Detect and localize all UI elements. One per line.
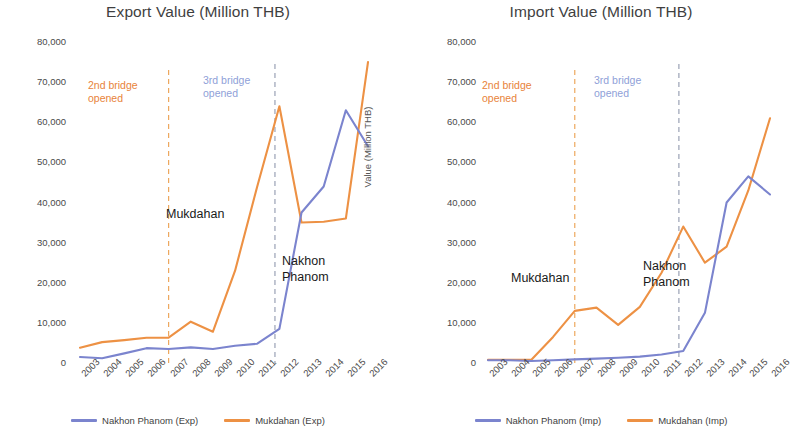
y-axis-tick-label: 80,000 [10, 37, 66, 47]
y-axis-title: Value (Million THB) [362, 87, 373, 207]
y-axis-tick-label: 50,000 [10, 157, 66, 167]
nakhon-phanom-series-annotation: Nakhon Phanom [282, 253, 329, 285]
series-line [488, 176, 770, 361]
x-axis-ticks: 2003200420052006200720082009201020112012… [68, 365, 378, 407]
y-axis-tick-label: 80,000 [420, 37, 476, 47]
y-axis-tick-label: 50,000 [420, 157, 476, 167]
import-legend: Nakhon Phanom (Imp)Mukdahan (Imp) [396, 415, 792, 426]
series-line [488, 118, 770, 360]
legend-item[interactable]: Nakhon Phanom (Imp) [475, 415, 602, 426]
x-axis-ticks: 2003200420052006200720082009201020112012… [478, 365, 778, 407]
legend-label: Mukdahan (Imp) [658, 415, 727, 426]
y-axis-ticks: 80,00070,00060,00050,00040,00030,00020,0… [410, 0, 476, 430]
bridge3-annotation: 3rd bridge opened [203, 74, 250, 100]
y-axis-tick-label: 40,000 [420, 198, 476, 208]
legend-item[interactable]: Nakhon Phanom (Exp) [71, 415, 198, 426]
y-axis-tick-label: 20,000 [10, 278, 66, 288]
export-chart-panel: Export Value (Million THB) Value (Millio… [0, 0, 396, 430]
legend-item[interactable]: Mukdahan (Exp) [224, 415, 325, 426]
bridge2-annotation: 2nd bridge opened [482, 79, 532, 105]
y-axis-tick-label: 10,000 [10, 318, 66, 328]
mukdahan-series-annotation: Mukdahan [166, 206, 224, 222]
legend-color-swatch [71, 419, 97, 422]
y-axis-tick-label: 0 [10, 358, 66, 368]
legend-color-swatch [475, 419, 501, 422]
y-axis-tick-label: 30,000 [420, 238, 476, 248]
legend-label: Nakhon Phanom (Exp) [102, 415, 198, 426]
y-axis-tick-label: 0 [420, 358, 476, 368]
bridge2-annotation: 2nd bridge opened [88, 79, 138, 105]
y-axis-ticks: 80,00070,00060,00050,00040,00030,00020,0… [0, 0, 66, 430]
y-axis-tick-label: 60,000 [10, 117, 66, 127]
legend-item[interactable]: Mukdahan (Imp) [627, 415, 727, 426]
bridge3-annotation: 3rd bridge opened [594, 74, 641, 100]
mukdahan-series-annotation: Mukdahan [511, 270, 569, 286]
y-axis-tick-label: 40,000 [10, 198, 66, 208]
y-axis-tick-label: 10,000 [420, 318, 476, 328]
y-axis-tick-label: 70,000 [420, 77, 476, 87]
y-axis-tick-label: 30,000 [10, 238, 66, 248]
series-line [80, 110, 368, 358]
legend-color-swatch [224, 419, 250, 422]
legend-color-swatch [627, 419, 653, 422]
y-axis-tick-label: 70,000 [10, 77, 66, 87]
legend-label: Mukdahan (Exp) [255, 415, 325, 426]
charts-container: Export Value (Million THB) Value (Millio… [0, 0, 793, 430]
import-chart-panel: Import Value (Million THB) Value (Millio… [396, 0, 792, 430]
nakhon-phanom-series-annotation: Nakhon Phanom [643, 258, 690, 290]
export-legend: Nakhon Phanom (Exp)Mukdahan (Exp) [0, 415, 396, 426]
y-axis-tick-label: 20,000 [420, 278, 476, 288]
legend-label: Nakhon Phanom (Imp) [506, 415, 602, 426]
y-axis-tick-label: 60,000 [420, 117, 476, 127]
